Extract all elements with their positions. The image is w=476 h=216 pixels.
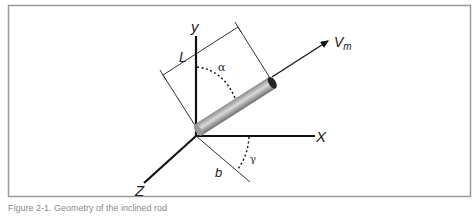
x-axis-label: X	[315, 128, 327, 145]
alpha-label: α	[218, 61, 226, 74]
figure-caption: Figure 2-1. Geometry of the inclined rod	[8, 203, 167, 213]
rod-geometry-diagram: y X Z L Vm α γ b	[0, 0, 476, 216]
gamma-label: γ	[250, 153, 256, 164]
velocity-subscript: m	[343, 41, 351, 52]
z-axis-label: Z	[134, 182, 145, 199]
length-label: L	[179, 49, 187, 65]
offset-label: b	[215, 165, 222, 180]
